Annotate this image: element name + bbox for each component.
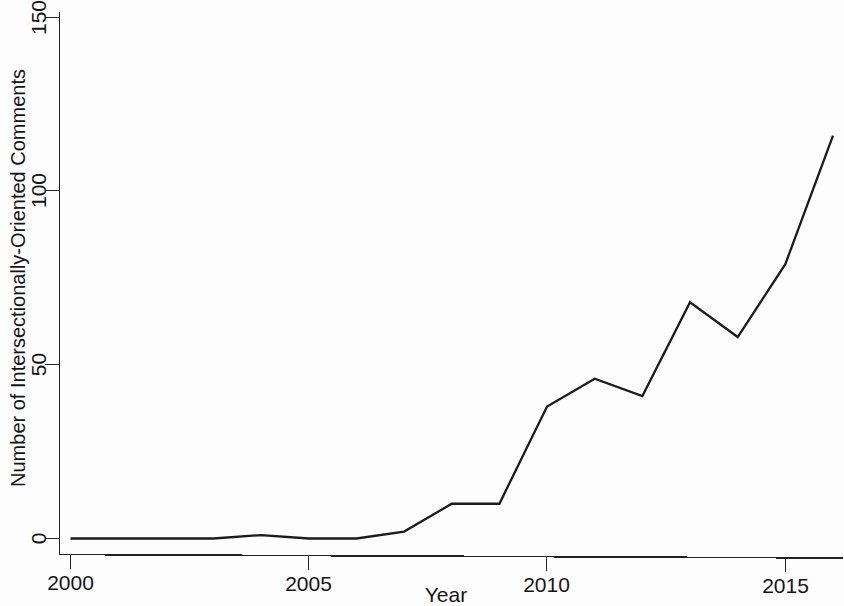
y-tick-label-0: 0	[27, 533, 50, 545]
x-axis-title: Year	[425, 583, 467, 606]
y-tick-label-50: 50	[27, 353, 50, 376]
y-tick-label-150: 150	[27, 0, 50, 35]
x-tick-label-2005: 2005	[285, 572, 332, 595]
chart-canvas: 150 100 50 0 Number of Intersectionally-…	[0, 0, 844, 606]
x-tick-label-2010: 2010	[523, 573, 570, 596]
y-axis-title: Number of Intersectionally-Oriented Comm…	[7, 69, 29, 487]
x-tick-label-2015: 2015	[762, 574, 809, 597]
x-tick-label-2000: 2000	[47, 571, 94, 594]
x-axis-line	[60, 555, 844, 559]
line-chart-figure: 150 100 50 0 Number of Intersectionally-…	[0, 0, 844, 606]
data-series-line	[71, 136, 834, 539]
y-tick-label-100: 100	[27, 173, 50, 208]
